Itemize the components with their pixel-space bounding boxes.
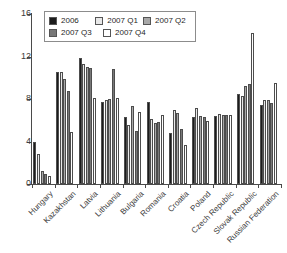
bar <box>251 33 254 184</box>
bar <box>244 86 247 184</box>
legend-label-2007-q4: 2007 Q4 <box>115 29 146 37</box>
bar <box>241 96 244 184</box>
bar <box>63 79 66 184</box>
bar <box>112 69 115 184</box>
x-tick-mark <box>100 184 101 188</box>
legend-swatch-icon-2007-q1 <box>95 17 103 25</box>
bar <box>267 100 270 184</box>
x-tick-mark <box>77 184 78 188</box>
bar <box>48 176 51 185</box>
legend-row-1: 2006 2007 Q1 2007 Q2 <box>49 15 191 27</box>
legend-item-2007-q3: 2007 Q3 <box>49 29 103 37</box>
bar <box>263 100 266 184</box>
legend-swatch-icon-2007-q3 <box>49 29 57 37</box>
bar <box>150 119 153 184</box>
bar <box>222 115 225 184</box>
bar-chart: 0481216 HungaryKazakhstanLatviaLithuania… <box>0 0 287 253</box>
legend-label-2007-q1: 2007 Q1 <box>107 17 138 25</box>
bar <box>260 105 263 184</box>
bar <box>147 102 150 184</box>
bar-group <box>260 14 278 184</box>
bar <box>270 103 273 184</box>
bar <box>116 98 119 184</box>
y-tick-label: 4 <box>7 137 31 146</box>
bar <box>124 117 127 184</box>
bar <box>157 122 160 184</box>
legend-item-2007-q2: 2007 Q2 <box>143 17 191 25</box>
bar <box>192 117 195 184</box>
bar <box>60 72 63 184</box>
x-axis-label: Croatia <box>167 190 191 214</box>
chart-legend: 2006 2007 Q1 2007 Q2 2007 Q3 2007 Q4 <box>44 11 196 42</box>
bar-group <box>237 14 255 184</box>
bar <box>41 171 44 184</box>
bar <box>176 113 179 184</box>
bar <box>214 116 217 184</box>
bar <box>44 174 47 184</box>
bar <box>248 84 251 184</box>
y-tick-label: 12 <box>7 52 31 61</box>
bar <box>237 94 240 184</box>
x-tick-mark <box>32 184 33 188</box>
y-tick-label: 16 <box>7 9 31 18</box>
legend-swatch-icon-2007-q2 <box>143 17 151 25</box>
x-tick-mark <box>258 184 259 188</box>
legend-label-2006: 2006 <box>61 17 79 25</box>
x-tick-mark <box>123 184 124 188</box>
bar <box>229 115 232 184</box>
bar <box>127 125 130 185</box>
bar <box>203 117 206 184</box>
legend-swatch-icon-2006 <box>49 17 57 25</box>
legend-row-2: 2007 Q3 2007 Q4 <box>49 27 191 39</box>
legend-item-2006: 2006 <box>49 17 95 25</box>
bar <box>225 115 228 184</box>
bar <box>138 112 141 184</box>
y-tick-label-wrap: 12 <box>0 52 31 61</box>
legend-swatch-icon-2007-q4 <box>103 29 111 37</box>
x-axis-line <box>31 184 281 185</box>
bar <box>105 100 108 184</box>
bar <box>108 99 111 184</box>
bar <box>82 64 85 184</box>
bar <box>70 132 73 184</box>
bar <box>67 91 70 185</box>
y-tick-label-wrap: 4 <box>0 137 31 146</box>
bar <box>161 115 164 184</box>
bar <box>37 154 40 184</box>
y-tick-label-wrap: 8 <box>0 94 31 103</box>
bar <box>199 116 202 184</box>
bar <box>184 145 187 184</box>
bar <box>218 114 221 184</box>
bar <box>154 123 157 184</box>
bar <box>180 129 183 184</box>
bar <box>206 121 209 184</box>
legend-item-2007-q4: 2007 Q4 <box>103 29 159 37</box>
legend-item-2007-q1: 2007 Q1 <box>95 17 143 25</box>
legend-label-2007-q3: 2007 Q3 <box>61 29 92 37</box>
bar <box>86 67 89 184</box>
y-tick-label-wrap: 0 <box>0 179 31 188</box>
x-tick-mark <box>55 184 56 188</box>
y-tick-label-wrap: 16 <box>0 9 31 18</box>
y-tick-label: 8 <box>7 94 31 103</box>
x-tick-mark <box>145 184 146 188</box>
y-tick-label: 0 <box>7 179 31 188</box>
bar <box>93 98 96 184</box>
bar <box>79 58 82 184</box>
bar-group <box>214 14 232 184</box>
x-tick-mark <box>236 184 237 188</box>
bar <box>101 102 104 184</box>
bar <box>33 142 36 185</box>
bar <box>131 106 134 184</box>
x-tick-mark <box>213 184 214 188</box>
x-tick-mark <box>168 184 169 188</box>
bar <box>56 72 59 184</box>
bar <box>173 110 176 184</box>
legend-label-2007-q2: 2007 Q2 <box>155 17 186 25</box>
x-tick-mark <box>281 184 282 188</box>
bar <box>89 68 92 184</box>
bar <box>274 83 277 184</box>
bar <box>195 108 198 185</box>
bar <box>135 131 138 184</box>
bar <box>169 133 172 184</box>
